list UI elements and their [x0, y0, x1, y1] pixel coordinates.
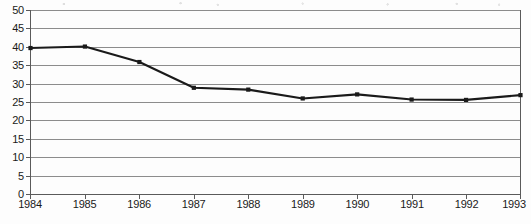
- data-point-marker: [301, 96, 305, 100]
- data-point-marker: [192, 86, 196, 90]
- y-axis-ticks: [26, 11, 30, 195]
- x-axis-ticks: [31, 195, 521, 200]
- data-point-marker: [137, 60, 141, 64]
- data-point-marker: [246, 88, 250, 92]
- data-point-marker: [83, 44, 87, 48]
- chart-canvas: [0, 0, 531, 224]
- data-series-line: [31, 47, 521, 100]
- data-point-marker: [28, 46, 32, 50]
- data-point-marker: [410, 97, 414, 101]
- data-point-marker: [518, 93, 522, 97]
- data-point-marker: [464, 98, 468, 102]
- line-chart: 50 45 40 35 30 25 20 15 10 5 0 1984 1985…: [0, 0, 531, 224]
- data-point-marker: [355, 92, 359, 96]
